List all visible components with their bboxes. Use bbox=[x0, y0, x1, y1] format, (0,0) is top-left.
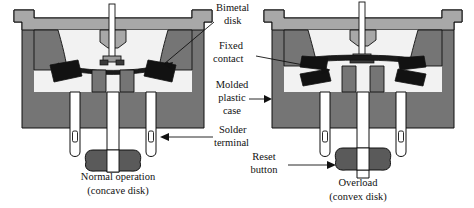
label-bimetal-disk-line2: disk bbox=[224, 15, 242, 26]
caption-left-line2: (concave disk) bbox=[87, 185, 149, 197]
plunger-seat-b-left bbox=[116, 60, 124, 65]
label-reset-button-line1: Reset bbox=[252, 151, 275, 162]
reset-stem-left bbox=[107, 150, 119, 172]
plunger-rod-left bbox=[109, 4, 115, 60]
solder-terminal-3[interactable] bbox=[146, 92, 156, 157]
terminal-hole-6 bbox=[399, 131, 404, 142]
caption-right-line1: Overload bbox=[338, 177, 378, 188]
label-solder-terminal-line1: Solder bbox=[219, 124, 247, 135]
reset-stem-right bbox=[357, 148, 369, 170]
label-reset-button-line2: button bbox=[251, 164, 279, 175]
terminal-hole-3 bbox=[149, 131, 154, 142]
label-molded-case-line2: plastic bbox=[218, 92, 246, 103]
plunger-seat-a-left bbox=[100, 60, 108, 65]
terminal-hole-4 bbox=[323, 131, 328, 142]
terminal-hole-1 bbox=[73, 131, 78, 142]
label-solder-terminal-line2: terminal bbox=[214, 137, 249, 148]
thermal-breaker-figure: Bimetal disk Fixed contact Molded plasti… bbox=[0, 0, 474, 208]
caption-left-line1: Normal operation bbox=[81, 171, 156, 182]
label-fixed-contact-line2: contact bbox=[213, 53, 243, 64]
caption-right-line2: (convex disk) bbox=[329, 191, 387, 203]
plunger-rod-right bbox=[359, 2, 365, 58]
label-molded-case-line1: Molded bbox=[216, 79, 249, 90]
solder-terminal-4[interactable] bbox=[320, 92, 330, 157]
solder-terminal-1[interactable] bbox=[70, 92, 80, 157]
label-molded-case-line3: case bbox=[223, 105, 241, 116]
figure-canvas: Bimetal disk Fixed contact Molded plasti… bbox=[0, 0, 474, 208]
label-fixed-contact-line1: Fixed bbox=[219, 40, 244, 51]
label-bimetal-disk-line1: Bimetal bbox=[216, 2, 249, 13]
solder-terminal-6[interactable] bbox=[396, 92, 406, 157]
